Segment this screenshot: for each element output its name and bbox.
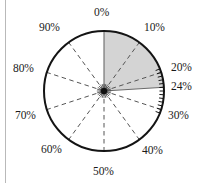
- center-hub-dot: [101, 88, 107, 94]
- dial-label-10pct: 10%: [144, 22, 165, 34]
- dial-label-40pct: 40%: [142, 145, 163, 157]
- spoke-60pct: [69, 91, 104, 140]
- spoke-40pct: [104, 91, 139, 140]
- dial-label-60pct: 60%: [41, 144, 62, 156]
- dial-label-0pct: 0%: [94, 7, 109, 19]
- dial-label-90pct: 90%: [39, 22, 60, 34]
- dial-label-20pct: 20%: [171, 62, 192, 74]
- percentage-dial-figure: 0%10%20%24%30%40%50%60%70%80%90%: [0, 0, 208, 183]
- dial-label-24pct: 24%: [171, 81, 192, 93]
- spoke-30pct: [104, 91, 161, 110]
- spoke-80pct: [47, 72, 104, 91]
- spoke-90pct: [69, 42, 104, 91]
- dial-label-80pct: 80%: [13, 63, 34, 75]
- dial-label-50pct: 50%: [93, 166, 114, 178]
- dial-label-30pct: 30%: [168, 110, 189, 122]
- spoke-70pct: [47, 91, 104, 110]
- dial-label-70pct: 70%: [15, 110, 36, 122]
